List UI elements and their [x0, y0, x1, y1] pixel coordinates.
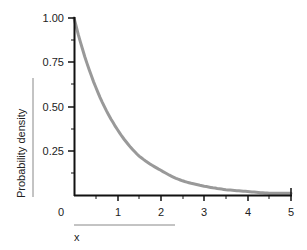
- y-tick-label-0.25: 0.25: [43, 145, 64, 157]
- density-curve: [74, 18, 291, 193]
- x-tick-label-4: 4: [245, 206, 251, 218]
- y-tick-label-0.75: 0.75: [43, 56, 64, 68]
- y-tick-label-1.00: 1.00: [43, 12, 64, 24]
- chart: Probability density x 1.00 0.75 0.50 0.2…: [0, 0, 307, 250]
- x-tick-label-5: 5: [288, 206, 294, 218]
- y-axis-label: Probability density: [15, 108, 27, 198]
- x-tick-label-3: 3: [201, 206, 207, 218]
- x-origin-label: 0: [58, 206, 64, 218]
- x-tick-label-2: 2: [158, 206, 164, 218]
- x-tick-label-1: 1: [115, 206, 121, 218]
- y-tick-label-0.50: 0.50: [43, 101, 64, 113]
- x-axis-label: x: [74, 231, 80, 243]
